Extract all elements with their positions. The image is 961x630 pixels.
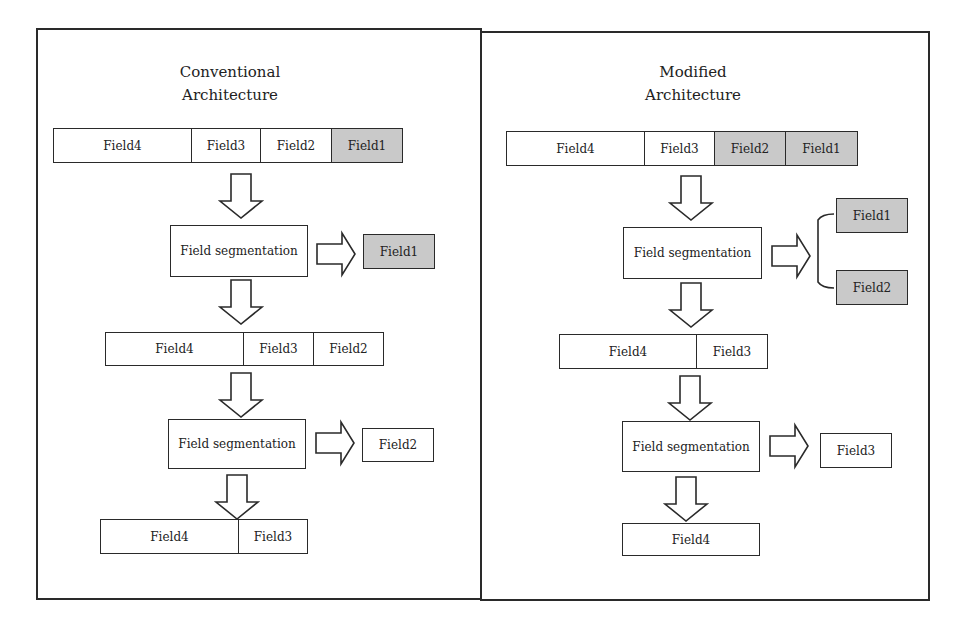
- modified-input-row: Field4 Field3 Field2 Field1: [506, 131, 858, 166]
- modified-segmentation-box-2: Field segmentation: [622, 421, 760, 472]
- field-cell-shaded: Field1: [786, 132, 857, 165]
- conventional-row-3: Field4 Field3: [100, 519, 308, 554]
- modified-title-line1: Modified: [593, 61, 793, 84]
- brace-icon: [812, 212, 836, 292]
- field-cell: Field3: [697, 335, 767, 368]
- conventional-segmentation-box-2: Field segmentation: [168, 419, 306, 469]
- field-cell: Field3: [239, 520, 307, 553]
- modified-segmentation-box-1: Field segmentation: [623, 227, 762, 279]
- down-arrow-icon: [219, 372, 263, 419]
- down-arrow-icon: [664, 476, 708, 523]
- down-arrow-icon: [219, 279, 263, 326]
- conventional-output-field2: Field2: [362, 428, 434, 462]
- down-arrow-icon: [215, 474, 259, 521]
- field-cell: Field2: [261, 129, 332, 162]
- modified-title: Modified Architecture: [593, 61, 793, 107]
- modified-output-field1: Field1: [836, 198, 908, 233]
- right-arrow-icon: [316, 232, 358, 278]
- field-cell: Field3: [645, 132, 715, 165]
- conventional-title-line2: Architecture: [130, 84, 330, 107]
- conventional-segmentation-box-1: Field segmentation: [170, 225, 308, 277]
- field-cell: Field4: [507, 132, 645, 165]
- field-cell-shaded: Field2: [715, 132, 786, 165]
- field-cell: Field4: [560, 335, 697, 368]
- modified-final-field4: Field4: [622, 523, 760, 556]
- down-arrow-icon: [669, 175, 713, 222]
- modified-output-field2: Field2: [836, 270, 908, 305]
- conventional-row-2: Field4 Field3 Field2: [105, 332, 384, 366]
- right-arrow-icon: [769, 424, 811, 470]
- field-cell: Field3: [244, 333, 314, 365]
- conventional-output-field1: Field1: [363, 234, 435, 269]
- field-cell: Field3: [192, 129, 261, 162]
- down-arrow-icon: [219, 173, 263, 220]
- conventional-input-row: Field4 Field3 Field2 Field1: [53, 128, 403, 163]
- field-cell: Field4: [101, 520, 239, 553]
- modified-row-2: Field4 Field3: [559, 334, 768, 369]
- down-arrow-icon: [668, 375, 712, 422]
- modified-title-line2: Architecture: [593, 84, 793, 107]
- modified-output-field3: Field3: [820, 433, 892, 468]
- down-arrow-icon: [669, 282, 713, 329]
- field-cell-shaded: Field1: [332, 129, 402, 162]
- field-cell: Field2: [314, 333, 383, 365]
- right-arrow-icon: [771, 234, 813, 280]
- conventional-title-line1: Conventional: [130, 61, 330, 84]
- conventional-title: Conventional Architecture: [130, 61, 330, 107]
- field-cell: Field4: [54, 129, 192, 162]
- field-cell: Field4: [106, 333, 244, 365]
- right-arrow-icon: [315, 421, 357, 467]
